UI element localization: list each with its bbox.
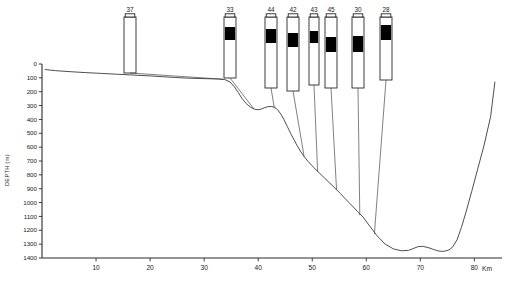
core-log-top-cap: [326, 14, 336, 17]
core-logs-group: 3733444243453028: [124, 6, 392, 91]
core-log-dark-interval: [326, 37, 336, 52]
y-axis-tick-label: 700: [27, 157, 38, 164]
core-log-column: [124, 17, 136, 73]
core-log-leader-line: [331, 88, 337, 190]
y-axis-tick-label: 1300: [23, 240, 37, 247]
core-log-leader-line: [271, 88, 274, 108]
core-log-dark-interval: [225, 27, 235, 40]
core-log-dark-interval: [353, 36, 363, 52]
y-axis-tick-label: 600: [27, 143, 38, 150]
x-axis-tick-label: 70: [417, 264, 425, 271]
profile-plot: 3733444243453028 01002003004005006007008…: [0, 0, 510, 282]
core-log-leader-line: [293, 91, 304, 157]
core-log-label: 33: [226, 6, 234, 13]
core-log-leader-line: [374, 80, 386, 234]
x-axis-group: 1020304050607080: [42, 258, 502, 271]
y-axis-tick-label: 1200: [23, 226, 37, 233]
core-log-top-cap: [381, 14, 391, 17]
core-log-label: 28: [382, 6, 390, 13]
x-axis-tick-label: 10: [92, 264, 100, 271]
x-axis-tick-label: 40: [255, 264, 263, 271]
y-axis-tick-label: 900: [27, 185, 38, 192]
core-log-dark-interval: [288, 33, 298, 47]
core-log-label: 43: [310, 6, 318, 13]
y-axis-tick-label: 200: [27, 88, 38, 95]
y-axis-tick-label: 0: [34, 60, 38, 67]
y-axis-tick-label: 1400: [23, 254, 37, 261]
seafloor-profile-group: [45, 70, 495, 252]
core-log-column: [265, 17, 277, 88]
core-log-label: 44: [267, 6, 275, 13]
y-axis-title: DEPTH (m): [4, 154, 10, 186]
core-log-leader-line: [314, 85, 318, 172]
y-axis-tick-label: 300: [27, 102, 38, 109]
y-axis-tick-label: 100: [27, 74, 38, 81]
core-log-top-cap: [310, 14, 318, 17]
core-log-top-cap: [125, 14, 135, 17]
x-axis-tick-label: 60: [363, 264, 371, 271]
x-axis-tick-label: 80: [471, 264, 479, 271]
x-axis-tick-label: 50: [309, 264, 317, 271]
core-log-column: [352, 17, 364, 88]
leader-lines-group: [130, 73, 386, 234]
core-log-top-cap: [353, 14, 363, 17]
core-log-leader-line: [358, 88, 360, 215]
y-axis-tick-label: 1000: [23, 199, 37, 206]
y-axis-tick-label: 1100: [24, 213, 38, 220]
core-log-label: 45: [327, 6, 335, 13]
seafloor-profile-line: [45, 70, 495, 252]
x-axis-tick-label: 20: [146, 264, 154, 271]
core-log-top-cap: [288, 14, 298, 17]
core-log-column: [309, 17, 319, 85]
core-log-top-cap: [266, 14, 276, 17]
core-log-column: [287, 17, 299, 91]
y-axis-tick-label: 400: [27, 116, 38, 123]
core-log-label: 30: [354, 6, 362, 13]
y-axis-tick-label: 500: [27, 129, 38, 136]
core-log-dark-interval: [310, 31, 318, 43]
core-log-column: [325, 17, 337, 88]
x-axis-unit-label: Km: [482, 265, 492, 272]
x-axis-tick-label: 30: [200, 264, 208, 271]
bathymetric-profile-figure: 3733444243453028 01002003004005006007008…: [0, 0, 510, 282]
core-log-top-cap: [225, 14, 235, 17]
core-log-dark-interval: [266, 29, 276, 43]
core-log-dark-interval: [381, 25, 391, 40]
core-log-column: [224, 17, 236, 78]
core-log-leader-line: [230, 78, 254, 109]
core-log-label: 37: [126, 6, 134, 13]
y-axis-tick-label: 800: [27, 171, 38, 178]
core-log-label: 42: [289, 6, 297, 13]
y-axis-group: 0100200300400500600700800900100011001200…: [23, 60, 42, 261]
